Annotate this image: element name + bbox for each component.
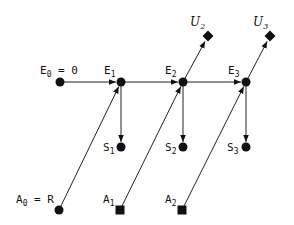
label-s2: S2 — [165, 141, 177, 156]
label-e2: E2 — [165, 64, 177, 79]
label-u3: U3 — [253, 15, 268, 31]
node-u2-diamond-icon — [203, 31, 214, 42]
node-u3-diamond-icon — [265, 31, 276, 42]
nodes — [55, 31, 276, 215]
label-e0: E0 = 0 — [40, 64, 78, 79]
node-e2-circle-icon — [179, 78, 188, 87]
node-e0-circle-icon — [56, 78, 65, 87]
node-a2-square-icon — [178, 206, 187, 215]
edges — [59, 41, 267, 210]
node-e1-circle-icon — [117, 78, 126, 87]
label-e1: E1 — [104, 64, 116, 79]
node-s1-circle-icon — [117, 143, 126, 152]
label-u2: U2 — [190, 15, 205, 31]
node-e3-circle-icon — [242, 78, 251, 87]
label-a1: A1 — [103, 193, 115, 208]
node-s3-circle-icon — [242, 143, 251, 152]
label-a2: A2 — [165, 193, 177, 208]
label-s1: S1 — [103, 141, 115, 156]
label-e3: E3 — [228, 64, 240, 79]
labels: E0 = 0E1E2E3U2U3S1S2S3A0 = RA1A2 — [16, 15, 268, 208]
edge-e3-u3 — [246, 41, 267, 82]
flow-diagram: E0 = 0E1E2E3U2U3S1S2S3A0 = RA1A2 — [0, 0, 294, 225]
node-s2-circle-icon — [179, 143, 188, 152]
edge-e2-u2 — [183, 41, 205, 82]
node-a1-square-icon — [116, 206, 125, 215]
label-a0: A0 = R — [16, 193, 54, 208]
label-s3: S3 — [227, 141, 239, 156]
node-a0-circle-icon — [55, 206, 64, 215]
